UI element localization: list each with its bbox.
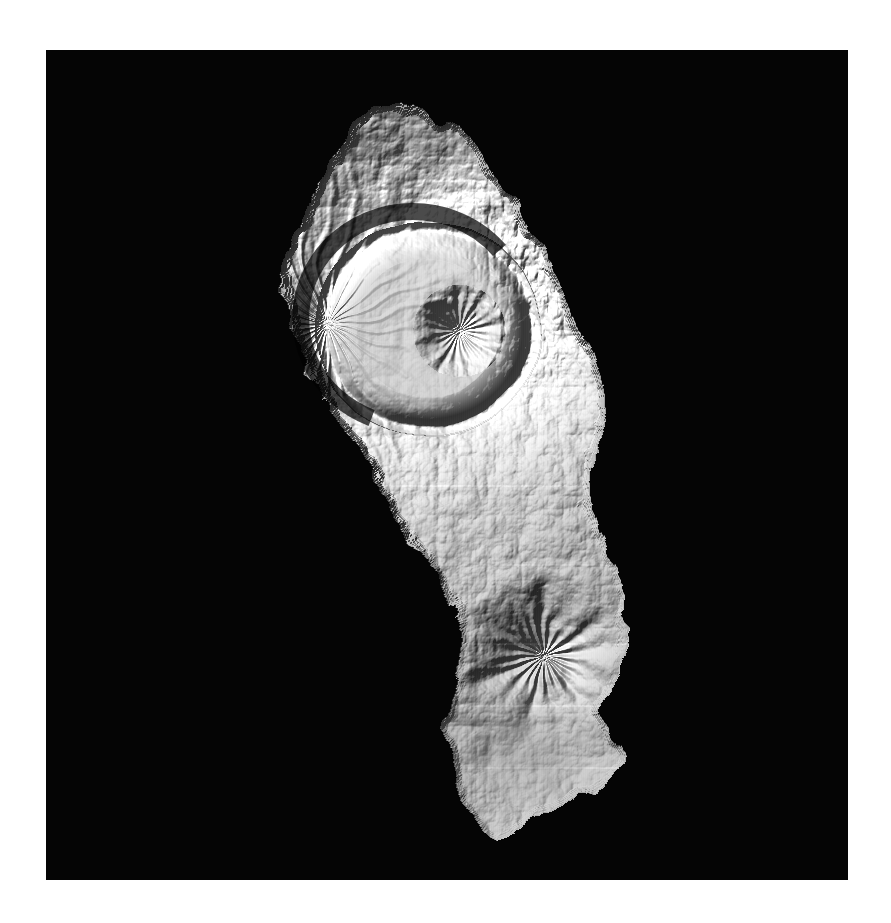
page-root [0,0,891,923]
map-panel [46,50,848,880]
hillshade-canvas [46,50,848,880]
